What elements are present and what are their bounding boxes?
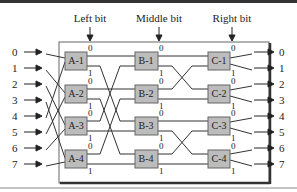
output-label-0: 0: [279, 46, 285, 58]
left-bit-label: Left bit: [74, 12, 107, 24]
switch-c-3: C-3: [212, 120, 227, 131]
switch-c-2: C-2: [212, 88, 227, 99]
input-label-3: 3: [12, 94, 18, 106]
switch-b-3: B-3: [139, 120, 154, 131]
input-label-2: 2: [12, 78, 18, 90]
middle-bit-label: Middle bit: [136, 12, 182, 24]
svg-text:0: 0: [159, 108, 164, 118]
right-bit-label: Right bit: [213, 12, 252, 24]
output-label-5: 5: [279, 126, 285, 138]
svg-text:0: 0: [159, 141, 164, 151]
wires-b-to-c: [158, 56, 208, 164]
wires-a-to-b: [87, 56, 135, 164]
switch-a-4: A-4: [68, 153, 84, 164]
input-ports: 0 1 2 3 4 5 6 7: [12, 46, 42, 170]
svg-text:0: 0: [159, 76, 164, 86]
switch-b-2: B-2: [139, 88, 154, 99]
svg-text:0: 0: [231, 108, 236, 118]
top-rule: [0, 0, 297, 3]
switch-c-4: C-4: [212, 153, 227, 164]
svg-text:0: 0: [88, 43, 93, 53]
output-label-2: 2: [279, 78, 285, 90]
switch-a-2: A-2: [68, 88, 84, 99]
svg-text:0: 0: [88, 76, 93, 86]
output-label-1: 1: [279, 62, 285, 74]
input-label-0: 0: [12, 46, 18, 58]
svg-text:1: 1: [231, 166, 236, 176]
switch-b-1: B-1: [139, 55, 154, 66]
banyan-switch-diagram: Left bit Middle bit Right bit: [0, 0, 297, 192]
svg-text:0: 0: [231, 141, 236, 151]
svg-text:1: 1: [88, 166, 93, 176]
input-label-1: 1: [12, 62, 18, 74]
output-label-3: 3: [279, 94, 285, 106]
svg-text:1: 1: [159, 166, 164, 176]
svg-text:0: 0: [88, 141, 93, 151]
input-label-4: 4: [12, 110, 18, 122]
switch-a-1: A-1: [68, 55, 84, 66]
output-label-6: 6: [279, 142, 285, 154]
svg-text:0: 0: [231, 43, 236, 53]
svg-text:0: 0: [88, 108, 93, 118]
switch-b-4: B-4: [139, 153, 154, 164]
input-label-7: 7: [12, 158, 18, 170]
output-label-4: 4: [279, 110, 285, 122]
input-label-6: 6: [12, 142, 18, 154]
heading-arrows: [87, 27, 235, 41]
switch-a-3: A-3: [68, 120, 84, 131]
svg-text:0: 0: [159, 43, 164, 53]
input-label-5: 5: [12, 126, 18, 138]
output-label-7: 7: [279, 158, 285, 170]
switch-c-1: C-1: [212, 55, 227, 66]
input-wires: [46, 54, 65, 166]
svg-text:0: 0: [231, 76, 236, 86]
